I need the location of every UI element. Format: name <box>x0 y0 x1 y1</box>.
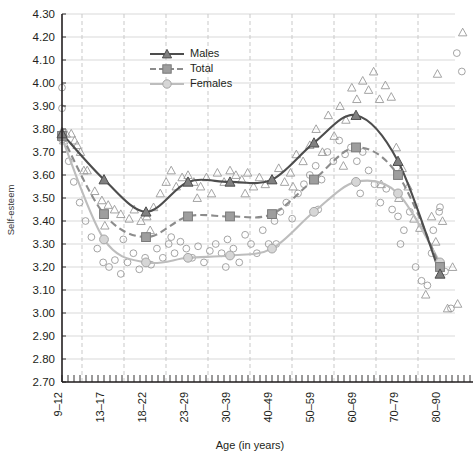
scatter-points <box>58 28 467 312</box>
scatter-triangle <box>364 86 372 94</box>
marker-females <box>310 207 319 216</box>
scatter-triangle <box>427 212 435 220</box>
marker-females <box>100 235 109 244</box>
y-tick-label: 3.80 <box>33 123 55 135</box>
legend-marker-total <box>163 65 171 73</box>
scatter-triangle <box>422 290 430 298</box>
scatter-triangle <box>324 111 332 119</box>
y-tick-label: 4.30 <box>33 8 55 20</box>
marker-total <box>268 210 277 219</box>
scatter-triangle <box>241 189 249 197</box>
scatter-triangle <box>433 70 441 78</box>
scatter-triangle <box>387 93 395 101</box>
self-esteem-age-chart: 4.304.204.104.003.903.803.703.603.503.40… <box>0 0 475 456</box>
series-line-males <box>62 115 440 274</box>
scatter-circle <box>365 167 372 174</box>
y-tick-label: 2.70 <box>33 376 55 388</box>
x-tick-label: 9–12 <box>52 392 64 416</box>
marker-females <box>226 251 235 260</box>
scatter-circle <box>76 199 83 206</box>
y-tick-label: 4.20 <box>33 31 55 43</box>
x-tick-label: 18–22 <box>136 392 148 423</box>
scatter-circle <box>436 208 443 215</box>
scatter-circle <box>171 250 178 257</box>
scatter-circle <box>312 162 319 169</box>
scatter-triangle <box>275 164 283 172</box>
legend-item-males[interactable]: Males <box>150 47 220 59</box>
scatter-circle <box>117 271 124 278</box>
scatter-circle <box>259 227 266 234</box>
scatter-circle <box>437 204 444 211</box>
x-tick-label: 60–69 <box>346 392 358 423</box>
scatter-circle <box>395 213 402 220</box>
scatter-triangle <box>369 67 377 75</box>
scatter-triangle <box>156 189 164 197</box>
scatter-circle <box>168 234 175 241</box>
scatter-triangle <box>458 28 466 36</box>
y-tick-labels: 4.304.204.104.003.903.803.703.603.503.40… <box>33 8 55 388</box>
scatter-circle <box>224 236 231 243</box>
y-tick-label: 3.20 <box>33 261 55 273</box>
x-axis-title: Age (in years) <box>216 439 284 451</box>
legend-item-total[interactable]: Total <box>150 62 213 74</box>
scatter-triangle <box>381 81 389 89</box>
scatter-circle <box>389 206 396 213</box>
x-tick-label: 50–59 <box>304 392 316 423</box>
marker-total <box>142 233 151 242</box>
scatter-circle <box>424 282 431 289</box>
y-tick-label: 3.50 <box>33 192 55 204</box>
y-tick-label: 2.90 <box>33 330 55 342</box>
scatter-circle <box>94 245 101 252</box>
scatter-circle <box>70 179 77 186</box>
scatter-circle <box>336 137 343 144</box>
legend-label-total: Total <box>190 62 213 74</box>
x-tick-label: 30–39 <box>220 392 232 423</box>
scatter-circle <box>120 236 127 243</box>
scatter-triangle <box>392 143 400 151</box>
scatter-triangle <box>453 300 461 308</box>
y-tick-label: 3.70 <box>33 146 55 158</box>
scatter-circle <box>453 50 460 57</box>
y-tick-label: 3.10 <box>33 284 55 296</box>
scatter-circle <box>430 227 437 234</box>
y-tick-label: 4.00 <box>33 77 55 89</box>
x-tick-label: 70–79 <box>388 392 400 423</box>
chart-canvas: 4.304.204.104.003.903.803.703.603.503.40… <box>0 0 475 456</box>
marker-females <box>394 189 403 198</box>
series-lines <box>62 115 440 274</box>
scatter-triangle <box>255 173 263 181</box>
scatter-triangle <box>280 178 288 186</box>
scatter-circle <box>201 259 208 266</box>
scatter-triangle <box>196 182 204 190</box>
legend-label-males: Males <box>190 47 220 59</box>
marker-females <box>268 244 277 253</box>
marker-males <box>393 156 403 165</box>
scatter-triangle <box>348 83 356 91</box>
y-tick-label: 3.40 <box>33 215 55 227</box>
scatter-triangle <box>289 182 297 190</box>
scatter-circle <box>353 158 360 165</box>
marker-females <box>184 253 193 262</box>
marker-total <box>310 175 319 184</box>
scatter-triangle <box>375 95 383 103</box>
scatter-circle <box>318 176 325 183</box>
scatter-triangle <box>91 187 99 195</box>
scatter-circle <box>242 231 249 238</box>
scatter-triangle <box>101 221 109 229</box>
y-tick-label: 3.30 <box>33 238 55 250</box>
y-axis-title: Self-esteem <box>5 185 16 236</box>
scatter-circle <box>130 250 137 257</box>
y-tick-label: 2.80 <box>33 353 55 365</box>
scatter-triangle <box>339 162 347 170</box>
scatter-circle <box>159 254 166 261</box>
scatter-circle <box>112 257 119 264</box>
scatter-circle <box>458 68 465 75</box>
legend-label-females: Females <box>190 77 233 89</box>
scatter-triangle <box>167 166 175 174</box>
x-tick-label: 23–29 <box>178 392 190 423</box>
scatter-circle <box>377 199 384 206</box>
scatter-circle <box>236 259 243 266</box>
scatter-circle <box>154 245 161 252</box>
x-tick-labels: 9–1213–1718–2223–2930–3940–4950–5960–697… <box>52 392 442 423</box>
scatter-triangle <box>207 189 215 197</box>
